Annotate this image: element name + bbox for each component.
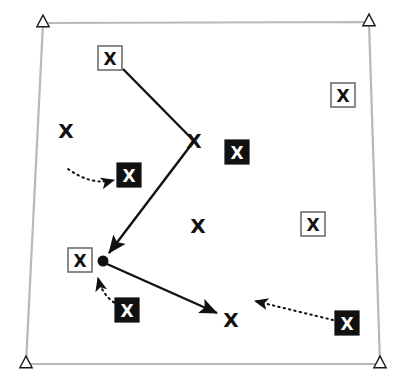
solid-track-polyline [107, 69, 217, 313]
corner-triangle-markers [20, 14, 386, 368]
filled-x-marker: X [225, 140, 249, 164]
plain-x-marker: X [223, 308, 239, 332]
x-glyph: X [58, 119, 74, 143]
x-glyph: X [122, 166, 135, 186]
track-node-dot [98, 256, 109, 267]
x-glyph: X [120, 301, 133, 321]
x-glyph: X [103, 49, 116, 69]
solid-track-segment-incoming [109, 69, 194, 253]
x-glyph: X [190, 214, 206, 238]
boxed-x-marker: X [331, 83, 355, 107]
x-glyph: X [336, 86, 349, 106]
plain-x-marker: X [190, 214, 206, 238]
boxed-x-marker: X [68, 248, 92, 272]
marker-layer: XXXXXXXXXXXX [58, 46, 359, 335]
dotted-association-arrows [68, 169, 333, 320]
boxed-x-marker: X [98, 46, 122, 70]
boxed-x-marker: X [301, 212, 325, 236]
corner-marker-bottom-right [374, 356, 386, 368]
plain-x-marker: X [58, 119, 74, 143]
corner-marker-top-right [363, 14, 375, 26]
x-glyph: X [186, 129, 202, 153]
dotted-arrow-bottom-right [255, 301, 333, 320]
diagram-svg: XXXXXXXXXXXX [0, 0, 409, 387]
figure-canvas: XXXXXXXXXXXX [0, 0, 409, 387]
survey-area-boundary [26, 22, 380, 364]
x-glyph: X [73, 251, 86, 271]
filled-x-marker: X [117, 163, 141, 187]
filled-x-marker: X [115, 298, 139, 322]
dotted-arrow-left [68, 169, 114, 182]
survey-area-outline [26, 22, 380, 364]
corner-marker-bottom-left [20, 356, 32, 368]
x-glyph: X [306, 215, 319, 235]
x-glyph: X [223, 308, 239, 332]
corner-marker-top-left [37, 15, 49, 27]
track-node-dot-shape [98, 256, 109, 267]
plain-x-marker: X [186, 129, 202, 153]
x-glyph: X [340, 314, 353, 334]
filled-x-marker: X [335, 311, 359, 335]
x-glyph: X [230, 143, 243, 163]
